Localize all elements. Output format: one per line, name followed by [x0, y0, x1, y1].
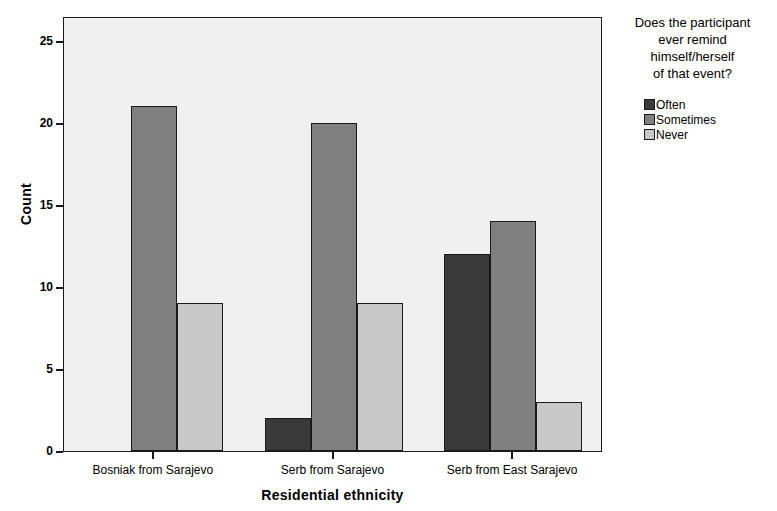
chart-legend: Does the participant ever remind himself… [608, 14, 777, 142]
y-axis-tick-mark [56, 123, 63, 125]
bar-never-1 [177, 303, 223, 451]
y-axis-tick-label: 15 [40, 198, 53, 213]
chart-figure: Count 0510152025 Residential ethnicity B… [0, 0, 777, 511]
bar-sometimes-1 [131, 106, 177, 451]
x-axis-tick-mark [332, 452, 334, 459]
x-axis: Residential ethnicity Bosniak from Saraj… [0, 452, 777, 511]
y-axis-tick-mark [56, 369, 63, 371]
y-axis-tick-label: 10 [40, 280, 53, 295]
bar-sometimes-3 [490, 221, 536, 451]
bar-often-3 [444, 254, 490, 451]
legend-swatch-icon [644, 114, 655, 125]
legend-item-label: Sometimes [656, 113, 716, 127]
x-axis-tick-mark [511, 452, 513, 459]
legend-item-label: Never [656, 128, 688, 142]
bar-sometimes-2 [311, 123, 357, 451]
x-axis-title: Residential ethnicity [63, 487, 602, 503]
x-axis-tick-label: Bosniak from Sarajevo [92, 463, 213, 478]
x-axis-tick-label: Serb from East Sarajevo [447, 463, 578, 478]
legend-item-sometimes: Sometimes [644, 112, 777, 127]
y-axis-tick-mark [56, 287, 63, 289]
y-axis-tick-label: 20 [40, 116, 53, 131]
x-axis-tick-mark [152, 452, 154, 459]
x-axis-tick-label: Serb from Sarajevo [281, 463, 384, 478]
y-axis-tick-mark [56, 41, 63, 43]
legend-item-never: Never [644, 127, 777, 142]
bar-never-2 [357, 303, 403, 451]
legend-items: OftenSometimesNever [608, 97, 777, 142]
y-axis-tick-mark [56, 205, 63, 207]
legend-swatch-icon [644, 99, 655, 110]
y-axis-tick-label: 25 [40, 34, 53, 49]
y-axis-title: Count [18, 154, 34, 254]
legend-swatch-icon [644, 129, 655, 140]
y-axis-tick-label: 5 [46, 362, 53, 377]
legend-title: Does the participant ever remind himself… [608, 14, 777, 82]
y-axis: Count 0510152025 [0, 0, 63, 511]
legend-item-often: Often [644, 97, 777, 112]
bars-layer [64, 18, 601, 451]
legend-item-label: Often [656, 98, 685, 112]
plot-area [63, 17, 602, 452]
bar-never-3 [536, 402, 582, 451]
bar-often-2 [265, 418, 311, 451]
